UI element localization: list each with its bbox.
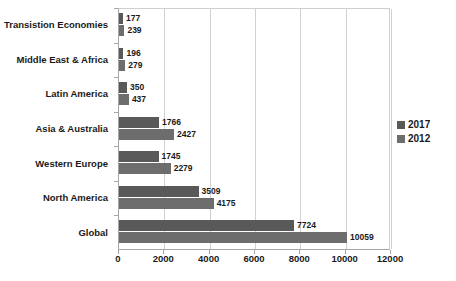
bar-group: 350437 — [119, 78, 389, 113]
bar-group: 17662427 — [119, 113, 389, 148]
bar-group: 177239 — [119, 9, 389, 44]
bar-2012 — [119, 198, 214, 209]
bar-2017 — [119, 186, 199, 197]
bar-value-label: 350 — [130, 82, 144, 93]
y-axis-tick — [114, 8, 118, 9]
x-axis-tick-label-4000: 4000 — [198, 253, 219, 264]
bar-value-label: 10059 — [350, 232, 374, 243]
x-axis-tick-label-2000: 2000 — [153, 253, 174, 264]
legend-label: 2012 — [408, 132, 430, 145]
bar-chart: Transistion EconomiesMiddle East & Afric… — [0, 0, 456, 281]
x-axis-tick-label-8000: 8000 — [289, 253, 310, 264]
bar-2017 — [119, 13, 123, 24]
bar-2012 — [119, 129, 174, 140]
legend-label: 2017 — [408, 118, 430, 131]
bar-2017 — [119, 151, 159, 162]
y-axis-category-labels: Transistion EconomiesMiddle East & Afric… — [0, 8, 113, 250]
bar-group: 772410059 — [119, 216, 389, 251]
bar-2012 — [119, 25, 124, 36]
bar-value-label: 177 — [126, 13, 140, 24]
x-axis-tick-labels: 020004000600080001000012000 — [118, 253, 390, 269]
bar-value-label: 4175 — [217, 198, 236, 209]
y-axis-label-global: Global — [78, 227, 108, 239]
gridline-12000 — [391, 9, 392, 249]
bar-group: 17452279 — [119, 147, 389, 182]
x-axis-tick-label-12000: 12000 — [377, 253, 403, 264]
y-axis-tick — [114, 77, 118, 78]
x-axis-tick-mark — [345, 250, 346, 254]
bar-value-label: 196 — [126, 48, 140, 59]
legend-item-2017[interactable]: 2017 — [397, 118, 453, 131]
y-axis-tick — [114, 146, 118, 147]
y-axis-label-north-america: North America — [43, 192, 108, 204]
x-axis-tick-label-0: 0 — [115, 253, 120, 264]
y-axis-tick — [114, 181, 118, 182]
legend-swatch-icon — [397, 135, 405, 143]
bar-rows: 1772391962793504371766242717452279350941… — [119, 9, 389, 249]
bar-value-label: 2279 — [174, 163, 193, 174]
bar-value-label: 239 — [127, 25, 141, 36]
x-axis-tick-mark — [209, 250, 210, 254]
bar-value-label: 7724 — [297, 220, 316, 231]
bar-2012 — [119, 232, 347, 243]
x-axis-tick-label-10000: 10000 — [331, 253, 357, 264]
x-axis-tick-mark — [299, 250, 300, 254]
bar-value-label: 279 — [128, 60, 142, 71]
bar-value-label: 3509 — [202, 186, 221, 197]
y-axis-label-western-europe: Western Europe — [35, 158, 108, 170]
bar-2012 — [119, 94, 129, 105]
x-axis-tick-mark — [390, 250, 391, 254]
legend-item-2012[interactable]: 2012 — [397, 132, 453, 145]
chart-legend: 20172012 — [397, 118, 453, 146]
x-axis-tick-mark — [254, 250, 255, 254]
bar-2017 — [119, 117, 159, 128]
y-axis-label-transistion-economies: Transistion Economies — [4, 19, 108, 31]
bar-2012 — [119, 60, 125, 71]
bar-group: 35094175 — [119, 182, 389, 217]
y-axis-tick — [114, 112, 118, 113]
bar-2017 — [119, 48, 123, 59]
bar-value-label: 437 — [132, 94, 146, 105]
x-axis-tick-mark — [118, 250, 119, 254]
bar-2017 — [119, 220, 294, 231]
bar-value-label: 1745 — [162, 151, 181, 162]
y-axis-label-asia-australia: Asia & Australia — [35, 123, 108, 135]
legend-swatch-icon — [397, 121, 405, 129]
bar-value-label: 1766 — [162, 117, 181, 128]
bar-value-label: 2427 — [177, 129, 196, 140]
bar-group: 196279 — [119, 44, 389, 79]
x-axis-tick-label-6000: 6000 — [243, 253, 264, 264]
plot-area: 1772391962793504371766242717452279350941… — [118, 8, 390, 250]
y-axis-label-middle-east-africa: Middle East & Africa — [16, 54, 108, 66]
y-axis-tick — [114, 43, 118, 44]
y-axis-tick — [114, 215, 118, 216]
x-axis-tick-mark — [163, 250, 164, 254]
y-axis-label-latin-america: Latin America — [46, 88, 108, 100]
bar-2017 — [119, 82, 127, 93]
bar-2012 — [119, 163, 171, 174]
